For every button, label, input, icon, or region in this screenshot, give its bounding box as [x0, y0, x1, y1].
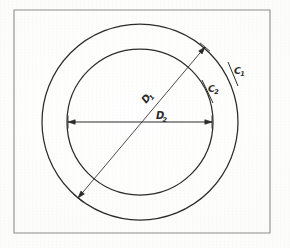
- inner-diameter-dimension-arrow-start: [68, 120, 75, 124]
- annulus-diagram: D 1 D 2 C 1 C 2: [0, 0, 290, 248]
- label-c2: C 2: [208, 83, 219, 96]
- inner-diameter-dimension-arrow-end: [205, 120, 212, 124]
- sketch-page: D 1 D 2 C 1 C 2: [0, 0, 290, 248]
- label-c2-subscript: 2: [214, 88, 219, 96]
- dimension-lines: [68, 43, 212, 202]
- label-c1: C 1: [234, 65, 245, 78]
- label-d1: D 1: [139, 90, 156, 107]
- label-c1-subscript: 1: [240, 70, 245, 78]
- label-d2-subscript: 2: [163, 116, 168, 124]
